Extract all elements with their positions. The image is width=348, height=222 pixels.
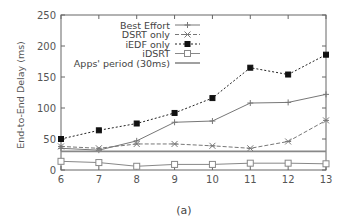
open-square-marker-icon — [96, 160, 102, 166]
x-marker-icon — [185, 32, 191, 38]
chart-legend: Best EffortDSRT onlyiEDF onlyiDSRTApps' … — [74, 20, 200, 69]
x-marker-icon — [172, 141, 178, 147]
filled-square-marker-icon — [324, 52, 329, 57]
filled-square-marker-icon — [210, 96, 215, 101]
filled-square-marker-icon — [134, 121, 139, 126]
open-square-marker-icon — [323, 161, 329, 167]
figure-caption: (a) — [176, 204, 191, 217]
y-tick-label: 100 — [37, 103, 56, 114]
plus-marker-icon — [209, 118, 215, 124]
plus-marker-icon — [323, 91, 329, 97]
y-tick-label: 150 — [37, 72, 56, 83]
open-square-marker-icon — [172, 161, 178, 167]
filled-square-marker-icon — [185, 42, 190, 47]
open-square-marker-icon — [247, 160, 253, 166]
y-axis-title: End-to-End Delay (ms) — [15, 41, 26, 149]
line-chart: 050100150200250678910111213 Best EffortD… — [0, 0, 348, 222]
filled-square-marker-icon — [96, 128, 101, 133]
x-tick-label: 7 — [96, 174, 102, 185]
x-tick-label: 6 — [58, 174, 64, 185]
x-marker-icon — [285, 138, 291, 144]
open-square-marker-icon — [285, 160, 291, 166]
plus-marker-icon — [247, 100, 253, 106]
plus-marker-icon — [285, 99, 291, 105]
x-tick-label: 8 — [134, 174, 140, 185]
chart-axes: 050100150200250678910111213 — [37, 10, 332, 186]
series-dsrt-only — [58, 117, 329, 151]
plus-marker-icon — [134, 138, 140, 144]
x-tick-label: 9 — [171, 174, 177, 185]
y-tick-label: 0 — [50, 165, 56, 176]
series-line — [61, 120, 326, 148]
filled-square-marker-icon — [172, 110, 177, 115]
open-square-marker-icon — [185, 51, 191, 57]
y-tick-label: 200 — [37, 41, 56, 52]
series-best-effort — [58, 91, 329, 153]
open-square-marker-icon — [58, 158, 64, 164]
filled-square-marker-icon — [248, 65, 253, 70]
x-marker-icon — [209, 143, 215, 149]
filled-square-marker-icon — [286, 72, 291, 77]
y-tick-label: 250 — [37, 10, 56, 21]
x-tick-label: 10 — [206, 174, 219, 185]
plus-marker-icon — [185, 22, 191, 28]
plus-marker-icon — [172, 119, 178, 125]
x-tick-label: 13 — [320, 174, 333, 185]
x-tick-label: 11 — [244, 174, 257, 185]
legend-label: Apps' period (30ms) — [74, 58, 170, 69]
filled-square-marker-icon — [59, 137, 64, 142]
open-square-marker-icon — [134, 163, 140, 169]
y-tick-label: 50 — [43, 134, 56, 145]
x-marker-icon — [247, 145, 253, 151]
chart-series — [58, 52, 329, 169]
legend-item: Apps' period (30ms) — [74, 58, 200, 69]
open-square-marker-icon — [209, 161, 215, 167]
x-tick-label: 12 — [282, 174, 295, 185]
